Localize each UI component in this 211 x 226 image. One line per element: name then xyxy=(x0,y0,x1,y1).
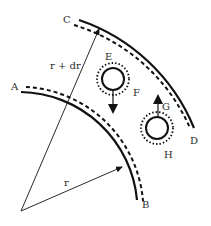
inner-dashed-arc xyxy=(26,87,143,201)
radius-r-arrow xyxy=(21,167,122,211)
outer-dashed-arc xyxy=(74,25,190,128)
particle-gh xyxy=(146,117,168,139)
label-f: F xyxy=(133,87,140,98)
label-c: C xyxy=(63,14,71,25)
radius-r-dr-arrow xyxy=(21,29,99,211)
label-b: B xyxy=(142,199,149,210)
label-a: A xyxy=(10,81,19,92)
inner-solid-arc xyxy=(21,92,137,200)
label-h: H xyxy=(164,149,173,160)
label-r: r xyxy=(64,177,69,188)
particle-ef xyxy=(102,68,124,90)
label-e: E xyxy=(105,51,112,62)
label-r-dr: r + dr xyxy=(50,60,81,71)
downward-arrowhead xyxy=(108,104,118,114)
label-g: G xyxy=(162,101,170,112)
fluid-element-diagram: A B C D E F G H r r + dr xyxy=(0,0,211,226)
label-d: D xyxy=(190,135,198,146)
